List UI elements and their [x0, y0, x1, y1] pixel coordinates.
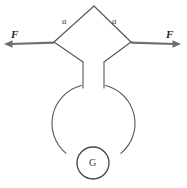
side-length-label-right: a — [112, 17, 117, 26]
diamond-lower-left-side — [54, 42, 83, 62]
gauge-label: G — [89, 158, 96, 168]
force-arrow-left-head — [4, 40, 13, 48]
force-arrow-right-head — [173, 40, 182, 48]
loop-arc-left — [52, 86, 81, 154]
diamond-upper-left-side — [54, 6, 94, 42]
force-arrow-left-shaft — [10, 43, 54, 44]
force-label-right: F — [166, 29, 173, 40]
diamond-lower-right-side — [104, 42, 131, 62]
side-length-label-left: a — [62, 17, 67, 26]
loop-arc-right — [106, 86, 135, 154]
force-label-left: F — [11, 29, 18, 40]
force-arrow-right-shaft — [131, 43, 175, 44]
force-diagram-figure: a a F F G — [0, 0, 187, 188]
